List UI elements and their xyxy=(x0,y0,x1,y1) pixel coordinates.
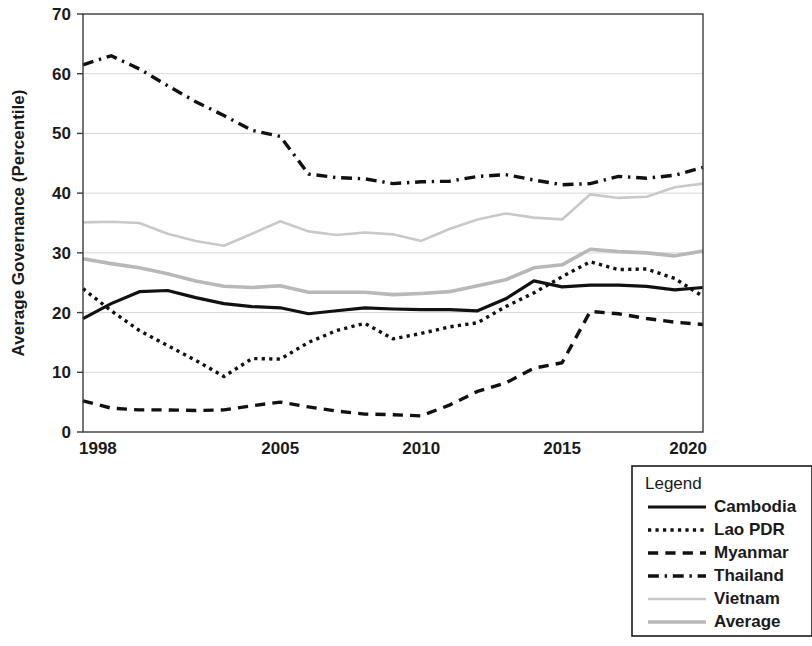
x-tick-label: 2005 xyxy=(261,439,299,458)
legend-label: Average xyxy=(714,612,780,631)
series-layer xyxy=(83,56,703,416)
gridlines xyxy=(83,74,703,373)
legend-title: Legend xyxy=(645,474,702,493)
plot-frame xyxy=(83,14,703,432)
y-tick-label: 50 xyxy=(52,124,71,143)
y-tick-label: 0 xyxy=(62,423,71,442)
series-myanmar xyxy=(83,311,703,416)
x-tick-label: 2010 xyxy=(402,439,440,458)
x-axis-ticks: 19982005201020152020 xyxy=(79,439,707,458)
legend-label: Thailand xyxy=(714,566,784,585)
y-tick-label: 70 xyxy=(52,5,71,24)
x-tick-label: 2020 xyxy=(669,439,707,458)
legend: Legend CambodiaLao PDRMyanmarThailandVie… xyxy=(632,466,812,636)
legend-label: Myanmar xyxy=(714,543,789,562)
y-axis-title: Average Governance (Percentile) xyxy=(9,90,28,357)
legend-label: Vietnam xyxy=(714,589,780,608)
series-lao-pdr xyxy=(83,262,703,377)
governance-line-chart: 010203040506070 19982005201020152020 Ave… xyxy=(0,0,812,646)
x-tick-label: 1998 xyxy=(79,439,117,458)
y-tick-label: 30 xyxy=(52,244,71,263)
series-thailand xyxy=(83,56,703,185)
legend-label: Cambodia xyxy=(714,497,797,516)
legend-label: Lao PDR xyxy=(714,520,785,539)
y-tick-label: 60 xyxy=(52,65,71,84)
y-tick-label: 10 xyxy=(52,363,71,382)
x-tick-label: 2015 xyxy=(543,439,581,458)
y-tick-label: 40 xyxy=(52,184,71,203)
series-average xyxy=(83,249,703,294)
y-axis-ticks: 010203040506070 xyxy=(52,5,83,442)
y-tick-label: 20 xyxy=(52,304,71,323)
